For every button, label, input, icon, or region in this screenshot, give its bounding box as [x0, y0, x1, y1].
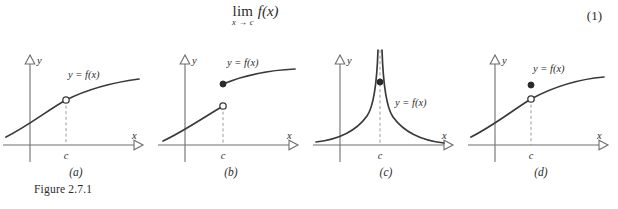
- limit-subscript: x → c: [232, 18, 254, 27]
- filled-dot-marker: [220, 81, 226, 87]
- y-axis-label: y: [346, 55, 352, 66]
- panel-label-c: (c): [310, 166, 462, 178]
- limit-expression: lim x → c f(x): [232, 4, 279, 28]
- function-curve: [6, 79, 139, 137]
- figure-panels: y x c y = f(x) y x: [0, 44, 618, 168]
- y-axis-arrowhead-icon: [490, 55, 500, 64]
- y-axis-label: y: [191, 55, 197, 66]
- x-axis-label: x: [441, 130, 447, 141]
- y-axis-arrowhead-icon: [180, 55, 190, 64]
- y-axis-arrowhead-icon: [335, 55, 345, 64]
- panel-b: y x c y = f(x): [155, 44, 307, 168]
- c-tick-label: c: [64, 150, 69, 161]
- function-curve-left-branch: [163, 106, 223, 141]
- filled-dot-marker: [528, 82, 534, 88]
- x-axis-arrowhead-icon: [599, 140, 608, 150]
- x-axis-label: x: [286, 130, 292, 141]
- filled-dot-marker: [377, 79, 383, 85]
- limit-function-expression: f(x): [258, 4, 279, 19]
- panel-label-d: (d): [465, 166, 617, 178]
- open-circle-marker: [528, 96, 534, 102]
- curve-label: y = f(x): [394, 97, 427, 109]
- y-axis-label: y: [501, 55, 507, 66]
- panel-a: y x c y = f(x): [0, 44, 152, 168]
- y-axis-label: y: [36, 55, 42, 66]
- x-axis-arrowhead-icon: [134, 140, 143, 150]
- figure-caption: Figure 2.7.1: [34, 183, 92, 195]
- x-axis-label: x: [596, 130, 602, 141]
- function-curve: [471, 77, 604, 137]
- curve-label: y = f(x): [67, 69, 100, 81]
- x-axis-arrowhead-icon: [289, 140, 298, 150]
- open-circle-marker: [63, 97, 69, 103]
- limit-operator-stack: lim x → c: [232, 4, 254, 27]
- equation-row: lim x → c f(x) (1): [0, 0, 618, 44]
- panel-d: y x c y = f(x): [465, 44, 617, 168]
- caption-row: (a) (b) (c) (d) Figure 2.7.1: [0, 166, 618, 209]
- c-tick-label: c: [529, 150, 534, 161]
- c-tick-label: c: [378, 150, 383, 161]
- panel-label-a: (a): [0, 166, 152, 178]
- x-axis-label: x: [131, 130, 137, 141]
- y-axis-arrowhead-icon: [25, 55, 35, 64]
- curve-label: y = f(x): [532, 63, 565, 75]
- equation-number: (1): [587, 8, 602, 24]
- panel-c: y x c y = f(x): [310, 44, 462, 168]
- panel-label-b: (b): [155, 166, 307, 178]
- c-tick-label: c: [221, 150, 226, 161]
- open-circle-marker: [220, 103, 226, 109]
- x-axis-arrowhead-icon: [444, 140, 453, 150]
- function-curve-right-branch: [223, 69, 295, 84]
- curve-label: y = f(x): [226, 57, 259, 69]
